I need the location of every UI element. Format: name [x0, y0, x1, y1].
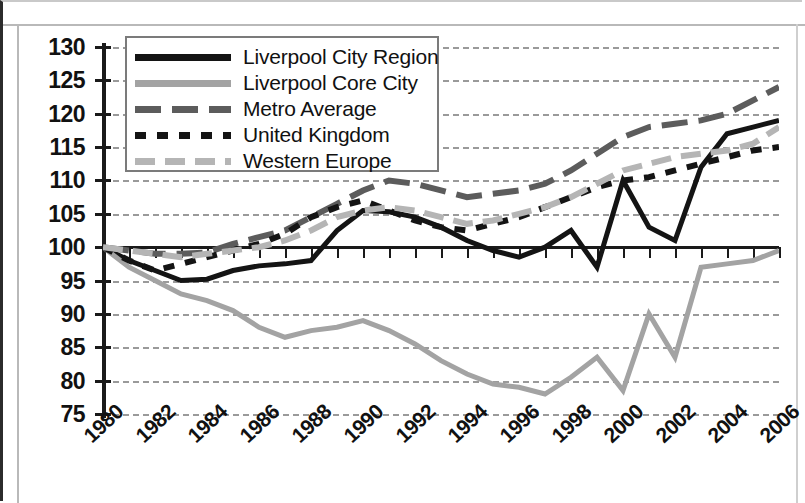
y-axis-tick-label: 100	[23, 234, 85, 261]
legend-item: Liverpool Core City	[135, 70, 437, 96]
legend-swatch-icon	[135, 80, 231, 87]
series-line-liverpool-core-city	[103, 247, 779, 394]
legend-label: Western Europe	[243, 149, 392, 173]
legend-item: United Kingdom	[135, 122, 437, 148]
y-axis-tick-label: 115	[23, 134, 85, 161]
y-axis-tick-label: 130	[23, 34, 85, 61]
y-axis-tick-label: 80	[23, 368, 85, 395]
x-axis-tick	[779, 247, 781, 258]
legend-item: Metro Average	[135, 96, 437, 122]
legend-label: Liverpool Core City	[243, 71, 418, 95]
y-axis-tick-label: 75	[23, 401, 85, 428]
y-axis-tick-label: 110	[23, 167, 85, 194]
y-axis-tick-label: 95	[23, 268, 85, 295]
y-axis-tick-label: 85	[23, 334, 85, 361]
legend-label: Liverpool City Region	[243, 45, 438, 69]
y-axis-tick-label: 125	[23, 67, 85, 94]
legend-item: Western Europe	[135, 148, 437, 174]
y-axis-tick-label: 105	[23, 201, 85, 228]
legend-label: United Kingdom	[243, 123, 390, 147]
legend-swatch-icon	[135, 132, 231, 139]
legend-swatch-icon	[135, 158, 231, 165]
legend-item: Liverpool City Region	[135, 44, 437, 70]
y-axis-tick-label: 90	[23, 301, 85, 328]
legend-label: Metro Average	[243, 97, 377, 121]
legend-swatch-icon	[135, 106, 231, 113]
chart-legend: Liverpool City RegionLiverpool Core City…	[125, 36, 439, 172]
legend-swatch-icon	[135, 54, 231, 61]
y-axis-tick-label: 120	[23, 101, 85, 128]
